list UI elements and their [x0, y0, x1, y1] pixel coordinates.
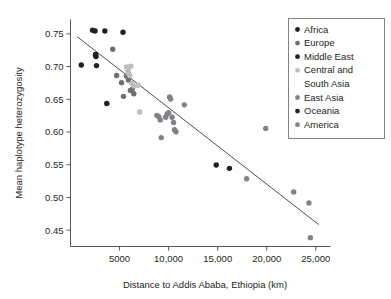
- y-tick-label: 0.70: [45, 61, 64, 72]
- data-point: [127, 73, 132, 78]
- y-tick-label: 0.65: [45, 94, 64, 105]
- legend-label[interactable]: Europe: [304, 37, 335, 48]
- legend-label[interactable]: East Asia: [304, 92, 344, 103]
- series-america: [244, 126, 313, 241]
- trend-line: [77, 37, 318, 225]
- data-point: [119, 80, 124, 85]
- data-point: [94, 63, 99, 68]
- data-point: [135, 83, 140, 88]
- scatter-plot-figure: 0.450.500.550.600.650.700.75 500010,0001…: [0, 0, 391, 299]
- data-points-layer: [79, 28, 313, 241]
- legend-marker: [295, 41, 300, 46]
- data-point: [306, 200, 311, 205]
- data-point: [291, 189, 296, 194]
- y-axis-ticks: 0.450.500.550.600.650.700.75: [45, 28, 71, 235]
- legend-marker: [295, 122, 300, 127]
- series-oceania: [213, 162, 232, 171]
- data-point: [159, 135, 164, 140]
- legend-marker: [295, 109, 300, 114]
- legend-label[interactable]: America: [304, 119, 340, 130]
- data-point: [171, 120, 176, 125]
- data-point: [102, 28, 107, 33]
- data-point: [79, 62, 84, 67]
- data-point: [120, 30, 125, 35]
- x-tick-label: 15,000: [203, 253, 232, 264]
- y-axis-title: Mean haplotype heterozygosity: [13, 67, 24, 199]
- y-tick-label: 0.60: [45, 126, 64, 137]
- x-tick-label: 20,000: [252, 253, 281, 264]
- data-point: [166, 110, 171, 115]
- legend-marker: [295, 68, 300, 73]
- data-point: [92, 28, 97, 33]
- data-point: [93, 52, 98, 57]
- data-point: [104, 101, 109, 106]
- series-africa: [79, 28, 110, 107]
- data-point: [308, 235, 313, 240]
- legend: AfricaEuropeMiddle EastCentral andSouth …: [289, 19, 385, 139]
- data-point: [263, 126, 268, 131]
- data-point: [158, 117, 163, 122]
- x-axis-title: Distance to Addis Ababa, Ethiopia (km): [123, 279, 287, 290]
- series-east-asia: [154, 94, 187, 140]
- regression-line: [77, 37, 318, 225]
- data-point: [137, 109, 142, 114]
- data-point: [227, 166, 232, 171]
- data-point: [213, 162, 218, 167]
- x-tick-label: 5000: [109, 253, 130, 264]
- legend-label[interactable]: Africa: [304, 24, 329, 35]
- y-tick-label: 0.50: [45, 192, 64, 203]
- data-point: [114, 73, 119, 78]
- x-tick-label: 10,000: [154, 253, 183, 264]
- legend-marker: [295, 54, 300, 59]
- data-point: [121, 94, 126, 99]
- x-axis-ticks: 500010,00015,00020,00025,000: [109, 247, 330, 264]
- data-point: [182, 102, 187, 107]
- legend-label[interactable]: Central and: [304, 64, 353, 75]
- data-point: [128, 64, 133, 69]
- legend-label[interactable]: Middle East: [304, 51, 354, 62]
- x-tick-label: 25,000: [301, 253, 330, 264]
- legend-marker: [295, 95, 300, 100]
- data-point: [169, 115, 174, 120]
- legend-marker: [295, 27, 300, 32]
- data-point: [168, 96, 173, 101]
- y-tick-label: 0.55: [45, 159, 64, 170]
- y-tick-label: 0.75: [45, 28, 64, 39]
- legend-label-wrap[interactable]: South Asia: [304, 78, 350, 89]
- data-point: [244, 176, 249, 181]
- y-tick-label: 0.45: [45, 225, 64, 236]
- series-middle-east: [93, 30, 126, 58]
- legend-label[interactable]: Oceania: [304, 105, 340, 116]
- data-point: [131, 91, 136, 96]
- data-point: [173, 129, 178, 134]
- data-point: [110, 47, 115, 52]
- plot-canvas: 0.450.500.550.600.650.700.75 500010,0001…: [0, 0, 391, 299]
